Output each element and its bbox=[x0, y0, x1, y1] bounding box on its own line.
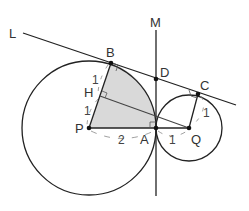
point-q bbox=[187, 126, 192, 131]
label-p: P bbox=[75, 121, 84, 136]
label-b: B bbox=[106, 45, 115, 60]
point-d bbox=[154, 77, 159, 82]
label-c: C bbox=[200, 78, 209, 93]
length-qc: 1 bbox=[203, 106, 210, 120]
label-a: A bbox=[140, 132, 149, 147]
length-aq: 1 bbox=[169, 133, 176, 147]
label-d: D bbox=[160, 65, 169, 80]
length-pa: 2 bbox=[118, 133, 125, 147]
label-m: M bbox=[150, 15, 161, 30]
label-l: L bbox=[9, 26, 16, 41]
segment-qc bbox=[189, 94, 198, 128]
label-h: H bbox=[84, 85, 93, 100]
length-hp: 1 bbox=[84, 104, 91, 118]
shaded-region bbox=[89, 63, 156, 128]
point-b bbox=[109, 61, 114, 66]
length-bh: 1 bbox=[92, 73, 99, 87]
point-a bbox=[154, 126, 159, 131]
label-q: Q bbox=[191, 132, 201, 147]
geometry-diagram: L M B D C H P A Q 2 1 1 1 1 bbox=[0, 0, 249, 211]
point-p bbox=[87, 126, 92, 131]
